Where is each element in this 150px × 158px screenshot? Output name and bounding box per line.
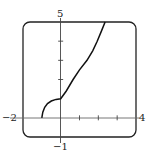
axis-ticks [58, 41, 117, 120]
function-curve [42, 22, 105, 118]
plot-area [0, 0, 150, 158]
x-min-label: −2 [2, 113, 17, 123]
x-max-label: 4 [139, 113, 145, 123]
y-max-label: 5 [57, 9, 63, 19]
y-min-label: −1 [53, 142, 68, 152]
